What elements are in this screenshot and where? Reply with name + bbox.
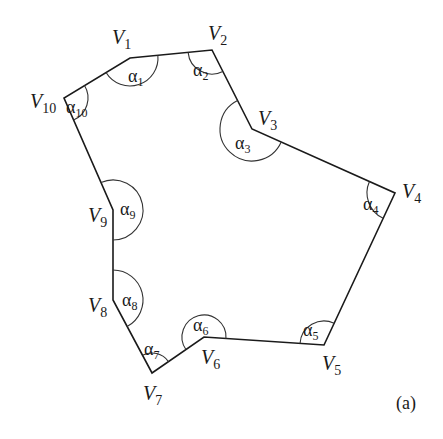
- vertex-label-1: V1: [112, 26, 131, 52]
- polygon-outline: [64, 50, 395, 373]
- angle-label-10: α10: [66, 97, 87, 120]
- angle-label-7: α7: [144, 339, 159, 362]
- angle-label-8: α8: [122, 290, 137, 313]
- vertex-label-6: V6: [201, 346, 220, 372]
- vertex-label-10: V10: [30, 90, 56, 116]
- angle-label-4: α4: [363, 194, 378, 217]
- vertex-label-3: V3: [258, 107, 277, 133]
- angle-label-3: α3: [235, 133, 250, 156]
- vertex-label-7: V7: [143, 382, 162, 408]
- vertex-label-5: V5: [322, 352, 341, 378]
- angle-label-2: α2: [193, 60, 208, 83]
- figure-caption: (a): [396, 393, 416, 414]
- angle-label-9: α9: [120, 199, 135, 222]
- angle-label-1: α1: [128, 66, 143, 89]
- vertex-label-2: V2: [208, 22, 227, 48]
- polygon-diagram: V1V2V3V4V5V6V7V8V9V10 α1α2α3α4α5α6α7α8α9…: [0, 0, 443, 439]
- angle-label-5: α5: [303, 320, 318, 343]
- vertex-labels: V1V2V3V4V5V6V7V8V9V10: [30, 22, 421, 408]
- vertex-label-8: V8: [88, 294, 107, 320]
- angle-label-6: α6: [193, 315, 208, 338]
- vertex-label-9: V9: [88, 204, 107, 230]
- polygon-figure: V1V2V3V4V5V6V7V8V9V10 α1α2α3α4α5α6α7α8α9…: [0, 0, 443, 439]
- vertex-label-4: V4: [402, 180, 421, 206]
